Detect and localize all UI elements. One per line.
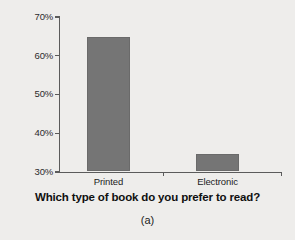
y-tick-label-30: 30% <box>13 167 53 177</box>
y-tick-label-70: 70% <box>13 12 53 22</box>
bar-electronic <box>196 154 239 171</box>
y-tick-label-40: 40% <box>13 128 53 138</box>
x-axis-line <box>59 172 282 173</box>
x-tick-mark-end <box>281 172 282 176</box>
x-tick-label-printed: Printed <box>68 176 149 188</box>
y-tick-mark-60 <box>55 55 60 56</box>
x-tick-mark-mid <box>163 172 164 176</box>
bar-printed <box>87 37 130 171</box>
y-tick-mark-30 <box>55 171 60 172</box>
y-tick-mark-70 <box>55 16 60 17</box>
figure-caption: (a) <box>0 214 295 226</box>
y-tick-label-50: 50% <box>13 89 53 99</box>
figure-bar-chart: 30% 40% 50% 60% 70% Printed Electronic W… <box>0 0 295 240</box>
y-tick-mark-50 <box>55 94 60 95</box>
x-tick-label-electronic: Electronic <box>177 176 258 188</box>
x-axis-title: Which type of book do you prefer to read… <box>0 191 295 203</box>
y-tick-label-60: 60% <box>13 51 53 61</box>
y-tick-mark-40 <box>55 133 60 134</box>
plot-area: 30% 40% 50% 60% 70% Printed Electronic <box>0 0 295 195</box>
